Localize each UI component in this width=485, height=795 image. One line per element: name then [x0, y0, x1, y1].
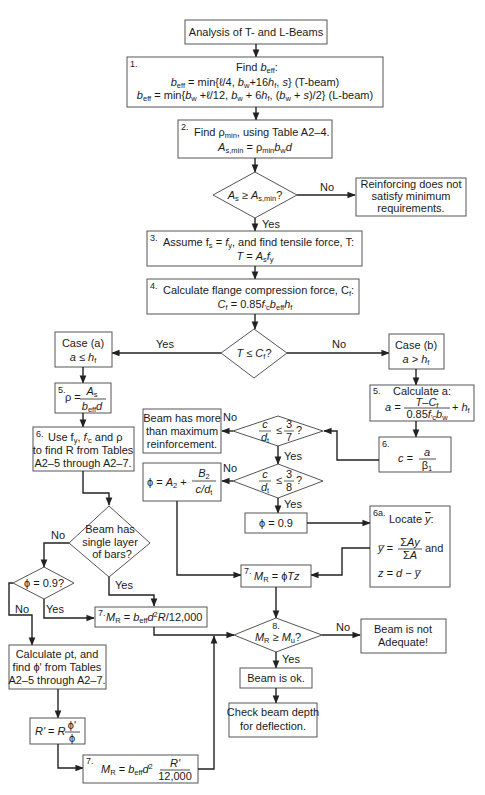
r-prime-box: R' = R ϕ' ϕ	[30, 718, 85, 744]
case-b-formula: a > hf	[403, 353, 431, 367]
flowchart: Analysis of T- and L-Beams 1. Find beff:…	[0, 0, 485, 795]
step5b-number: 5.	[373, 386, 381, 396]
step6a-line3: A2–5 through A2–7.	[34, 457, 131, 469]
step3-line1: Assume fs = fy, and find tensile force, …	[163, 236, 354, 250]
step6a-locate-box: 6a. Locate y: y̅ = ΣAy ΣA and z = d − y̅	[370, 506, 450, 587]
step6a-number: 6.	[36, 429, 44, 439]
label-yes: Yes	[156, 338, 174, 350]
single-text-2: single layer	[82, 536, 138, 548]
r-prime-num: ϕ'	[68, 719, 76, 731]
not-adequate-2: Adequate!	[378, 636, 428, 648]
label-yes: Yes	[46, 603, 64, 615]
step7-rprime-den: 12,000	[158, 770, 192, 782]
step7-phitz-number: 7.	[244, 566, 252, 576]
check-text-2: for deflection.	[240, 720, 306, 732]
d38-c: c	[262, 468, 268, 480]
beam-ok-box: Beam is ok.	[240, 668, 312, 688]
step7-r-number: 7.	[98, 608, 106, 618]
calc-text-1: Calculate ρt, and	[16, 648, 99, 660]
d37-q: ?	[296, 424, 302, 436]
step1-tbeam-formula: beff = min{ℓ/4, bw+16hf, s} (T-beam)	[171, 76, 340, 90]
step5b-denominator: 0.85f'cbw	[406, 408, 448, 422]
over-text-3: reinforcement.	[147, 438, 217, 450]
case-a-box: Case (a) a ≤ hf	[55, 332, 112, 367]
step6b-c: c =	[398, 452, 414, 464]
step3-number: 3.	[150, 233, 158, 243]
step1-number: 1.	[130, 59, 138, 69]
step4-line1: Calculate flange compression force, Cf:	[163, 284, 354, 298]
arrow-rprime-d8	[198, 636, 214, 769]
arrow-r-d8	[154, 627, 234, 635]
calc-rho-t-box: Calculate ρt, and find ϕ' from Tables A2…	[8, 645, 106, 689]
decision-3-7: c dt ≤ 3 7 ?	[233, 416, 323, 446]
fail-text-3: requirements.	[377, 202, 444, 214]
decision-mr-mu-text: MR ≥ Mu?	[255, 631, 301, 645]
step1-box: 1. Find beff: beff = min{ℓ/4, bw+16hf, s…	[127, 57, 383, 107]
label-no: No	[332, 338, 346, 350]
step2-line1: Find ρmin, using Table A2–4.	[194, 126, 330, 140]
arrow-6a-mr	[311, 548, 370, 575]
decision-t-cf-text: T ≤ Cf?	[236, 347, 271, 361]
not-adequate-box: Beam is not Adequate!	[361, 619, 446, 653]
label-no: No	[223, 462, 237, 474]
fail-text-2: satisfy minimum	[372, 190, 451, 202]
step7-rprime-box: 7. MR = beffd2 R' 12,000	[83, 755, 198, 783]
phi-transition-lhs: ϕ = A2 +	[147, 476, 187, 490]
decision-mr-mu: 8. MR ≥ Mu?	[234, 618, 322, 652]
step5a-box: 5. ρ = As beffd	[55, 383, 111, 414]
arrow-s6a-single	[83, 471, 109, 505]
over-text-2: than maximum	[146, 425, 218, 437]
decision-phi-09: ϕ = 0.9?	[13, 567, 74, 599]
step7-rprime-num: R'	[170, 757, 181, 769]
ybar-den: ΣA	[403, 549, 417, 561]
step6a-locate-number: 6a.	[373, 508, 386, 518]
check-depth-box: Check beam depth for deflection.	[227, 703, 319, 737]
step4-box: 4. Calculate flange compression force, C…	[147, 279, 359, 314]
label-no: No	[320, 181, 334, 193]
step6b-number: 6.	[382, 439, 390, 449]
case-a-formula: a ≤ hf	[70, 351, 97, 365]
step2-number: 2.	[181, 122, 189, 132]
d38-le: ≤	[276, 474, 282, 486]
step7-phitz-formula: MR = ϕTz	[254, 570, 300, 584]
decision-as-min: As ≥ As,min?	[213, 172, 297, 218]
step6b-numerator: a	[424, 446, 430, 458]
calc-text-3: A2–5 through A2–7.	[8, 674, 105, 686]
ybar-num: ΣAy	[400, 536, 421, 548]
ybar-eq: y̅ =	[377, 542, 394, 554]
step5a-formula: ρ =	[65, 391, 81, 403]
d37-3: 3	[286, 418, 292, 430]
r-prime-den: ϕ	[69, 732, 75, 744]
over-text-1: Beam has more	[143, 412, 221, 424]
title-text: Analysis of T- and L-Beams	[189, 26, 324, 38]
decision-t-cf: T ≤ Cf?	[221, 329, 287, 378]
step7-rprime-number: 7.	[86, 756, 94, 766]
case-b-label: Case (b)	[395, 339, 437, 351]
decision-3-8: c dt ≤ 3 8 ?	[233, 464, 323, 498]
single-text-3: of bars?	[92, 548, 132, 560]
step2-box: 2. Find ρmin, using Table A2–4. As,min =…	[178, 120, 332, 158]
ybar-and: and	[425, 542, 443, 554]
step3-box: 3. Assume fs = fy, and find tensile forc…	[147, 231, 362, 266]
label-yes: Yes	[115, 579, 133, 591]
label-yes: Yes	[282, 653, 300, 665]
label-no: No	[223, 411, 237, 423]
label-yes: Yes	[284, 498, 302, 510]
decision-phi-09-text: ϕ = 0.9?	[24, 577, 64, 589]
step6b-box: 6. c = a β1	[379, 437, 451, 473]
z-formula: z = d − y̅	[377, 567, 422, 579]
label-yes: Yes	[262, 218, 280, 230]
step7-phitz-box: 7. MR = ϕTz	[241, 565, 311, 587]
fail-text-1: Reinforcing does not	[361, 178, 462, 190]
label-no: No	[336, 621, 350, 633]
check-text-1: Check beam depth	[227, 706, 319, 718]
phi-transition-box: ϕ = A2 + B2 c/dt	[143, 463, 221, 501]
title-box: Analysis of T- and L-Beams	[185, 20, 327, 44]
step1-lbeam-formula: beff = min{bw +ℓ/12, bw + 6hf, (bw + s)/…	[137, 89, 373, 103]
d37-le: ≤	[276, 424, 282, 436]
decision-8-number: 8.	[272, 621, 280, 631]
r-prime-lhs: R' = R	[35, 725, 66, 737]
case-a-label: Case (a)	[62, 337, 104, 349]
d37-7: 7	[286, 431, 292, 443]
d38-q: ?	[296, 474, 302, 486]
